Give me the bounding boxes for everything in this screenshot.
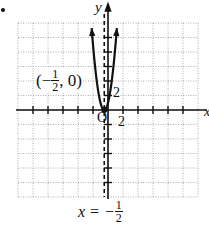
- axis-eq-prefix: x = −: [78, 203, 115, 221]
- vertex-fraction-denominator: 2: [52, 81, 58, 93]
- axis-of-symmetry-label: x = − 1 2: [78, 199, 123, 224]
- y-axis-label: y: [95, 0, 102, 16]
- x-axis-label: x: [204, 104, 209, 120]
- vertex-label-close: , 0): [59, 71, 82, 91]
- axes: [16, 4, 206, 199]
- origin-label: O: [97, 110, 107, 126]
- y-tick-label-2: 2: [113, 85, 120, 101]
- axis-eq-fraction: 1 2: [115, 199, 123, 224]
- axis-eq-denominator: 2: [116, 212, 122, 224]
- x-tick-label-2: 2: [118, 114, 125, 130]
- vertex-label-open: (−: [36, 71, 51, 91]
- vertex-label: (− 1 2 , 0): [36, 68, 82, 93]
- vertex-label-fraction: 1 2: [51, 68, 59, 93]
